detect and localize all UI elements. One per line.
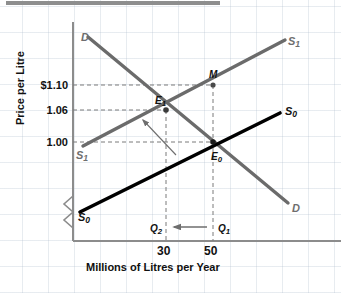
quantity-label-q2-sub: 2 (158, 227, 162, 236)
x-axis-title: Millions of Litres per Year (86, 262, 220, 273)
point-m (210, 82, 215, 87)
demand-curve (88, 37, 288, 203)
point-e1 (163, 107, 169, 113)
point-label-e0-sub: 0 (218, 155, 222, 164)
quantity-label-q1-sub: 1 (226, 227, 230, 236)
point-label-e0-text: E (211, 151, 218, 162)
supply-shift-arrow (143, 120, 176, 155)
supply-s0-label-bottom: S0 (78, 212, 90, 224)
y-axis-title: Price per Litre (14, 49, 26, 127)
quantity-label-q2-text: Q (150, 223, 158, 234)
supply-curve-s0 (80, 113, 280, 212)
supply-s1-label-top-sub: 1 (295, 39, 300, 49)
y-tick-label-100: 1.00 (24, 137, 68, 148)
demand-curve-label-bottom: D (292, 203, 300, 214)
supply-s0-label-right: S0 (285, 106, 297, 118)
supply-s1-label-bottom: S1 (76, 150, 88, 162)
quantity-label-q1-text: Q (218, 223, 226, 234)
x-tick-label-30: 30 (157, 245, 170, 257)
axis-break-icon (64, 196, 73, 228)
x-tick-label-50: 50 (204, 245, 217, 257)
point-label-e1-text: E (155, 95, 162, 106)
y-tick-label-110: $1.10 (24, 80, 68, 91)
y-tick-label-106: 1.06 (24, 105, 68, 116)
point-label-e1: E1 (155, 96, 166, 108)
quantity-label-q2: Q2 (150, 224, 162, 236)
supply-s0-label-right-sub: 0 (292, 109, 297, 119)
demand-curve-label-top: D (81, 32, 89, 43)
point-label-m: M (209, 70, 217, 80)
point-label-e1-sub: 1 (162, 99, 166, 108)
quantity-label-q1: Q1 (218, 224, 230, 236)
supply-s1-label-top: S1 (288, 36, 300, 48)
supply-s1-label-bottom-sub: 1 (83, 153, 88, 163)
point-e0 (210, 139, 216, 145)
supply-s0-label-bottom-sub: 0 (85, 215, 90, 225)
point-label-e0: E0 (211, 152, 222, 164)
